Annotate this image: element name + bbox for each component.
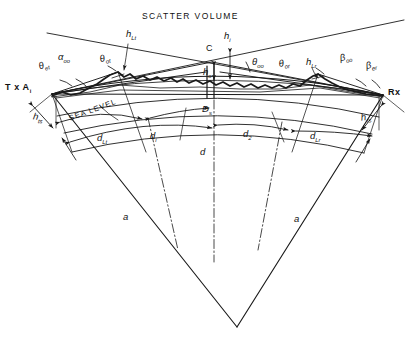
crossover-point-label: C [206,44,213,53]
a-left-label: a [123,212,128,222]
Ds-label: Ds [202,104,212,117]
tx-elevation-rays [52,62,212,94]
alpha-oo-label: αoo [58,52,70,65]
a-right-label: a [294,214,299,224]
d-label: d [200,147,205,160]
h-rs-label: hrs [360,111,372,125]
theta-or-label: θor [278,57,290,71]
beta-oo-label: βoo [339,51,353,66]
d-Lr-label: dLr [310,131,321,144]
h-Lt-label: hLt [126,29,136,42]
figure-canvas: SCATTER VOLUME T x Ai Rx C SEA LEVEL θet… [0,0,409,345]
earth-radius-lines [52,94,383,327]
receiver-label: Rx [388,88,401,97]
dash-dot-radials [148,100,282,262]
h-o-label: ho [203,67,212,80]
path-chord-baseline [52,94,383,95]
theta-oo-label: θoo [252,57,264,70]
d-i-label: di [150,131,157,144]
h-ts-label: hts [32,111,44,125]
scatter-volume-title: SCATTER VOLUME [142,12,239,21]
radius-a-arrows [62,138,370,162]
h-Lr-label: hLr [306,57,317,70]
d-Lt-label: dLt [97,133,107,146]
h-i-label: hi [224,31,231,44]
d-2-label: d2 [243,129,252,142]
rx-elevation-rays [212,62,383,95]
transmitter-label: T x Ai [5,83,31,94]
beta-er-label: βer [365,59,378,74]
terrain-base-line [56,88,380,98]
